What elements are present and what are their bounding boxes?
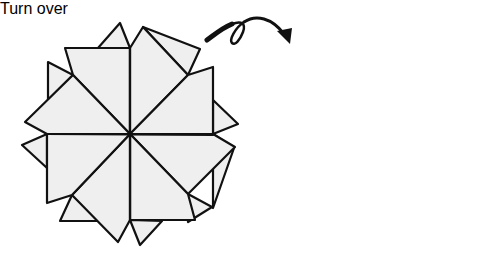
diagram-canvas (0, 0, 498, 260)
origami-diagram: Origami star unit assembly: turn over st… (0, 0, 498, 260)
turn-over-arrow-icon (207, 18, 292, 44)
tip-bottom-left (130, 220, 162, 245)
crease-h (47, 134, 213, 135)
tip-right-upper (213, 100, 238, 134)
tip-left-lower (22, 134, 47, 168)
star-before (22, 23, 238, 245)
tip-top-left (98, 23, 130, 48)
